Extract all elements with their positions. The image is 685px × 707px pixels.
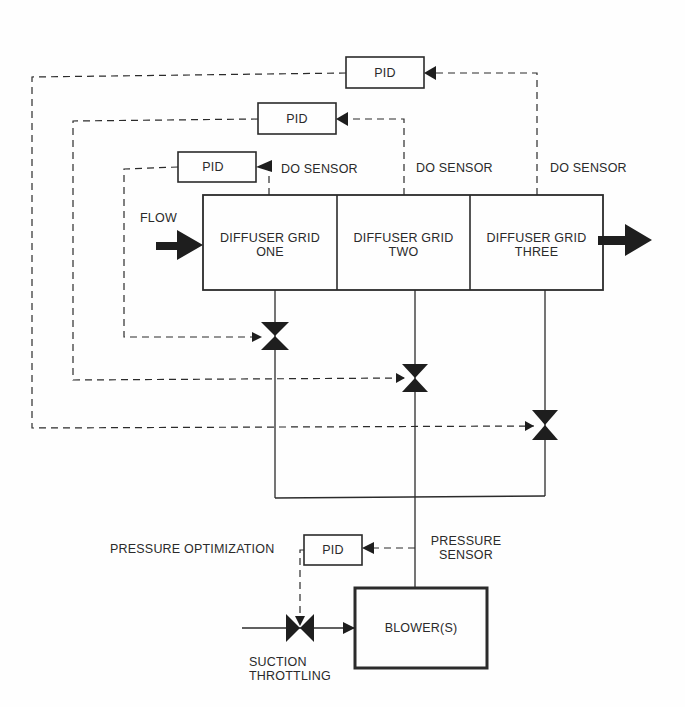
- arrow-into-pid-2: [336, 112, 348, 126]
- grid-two-line2: TWO: [337, 245, 470, 259]
- grid-one-line2: ONE: [203, 245, 337, 259]
- suction-throttling-label: SUCTION THROTTLING: [249, 655, 331, 683]
- grid-one-line1: DIFFUSER GRID: [203, 231, 337, 245]
- do-sensor-label-3: DO SENSOR: [550, 161, 627, 175]
- pressure-sensor-line2: SENSOR: [426, 548, 506, 562]
- valve-grid-1-bottom: [261, 336, 289, 350]
- grid-one-label: DIFFUSER GRID ONE: [203, 231, 337, 259]
- grid-three-line1: DIFFUSER GRID: [470, 231, 603, 245]
- pid-label-grid-2: PID: [258, 112, 336, 126]
- pid-label-pressure: PID: [304, 543, 362, 557]
- grid-two-label: DIFFUSER GRID TWO: [337, 231, 470, 259]
- do-sensor-label-2: DO SENSOR: [416, 161, 493, 175]
- pid-label-grid-3: PID: [346, 66, 424, 80]
- arrow-into-pid-1: [256, 160, 272, 172]
- flow-out-arrow-icon: [598, 224, 652, 256]
- pid-label-grid-1: PID: [178, 160, 248, 174]
- flow-label: FLOW: [140, 211, 177, 225]
- pressure-sensor-label: PRESSURE SENSOR: [426, 534, 506, 562]
- grid-three-line2: THREE: [470, 245, 603, 259]
- grid-two-line1: DIFFUSER GRID: [337, 231, 470, 245]
- diagram-lines: [0, 0, 685, 707]
- do-sensor-label-1: DO SENSOR: [281, 162, 358, 176]
- pressure-sensor-line1: PRESSURE: [426, 534, 506, 548]
- blower-label: BLOWER(S): [355, 621, 487, 635]
- suction-throttling-line2: THROTTLING: [249, 669, 331, 683]
- grid-three-label: DIFFUSER GRID THREE: [470, 231, 603, 259]
- valve-grid-1-top: [261, 322, 289, 336]
- arrow-into-pid-pressure: [362, 542, 374, 554]
- arrow-into-pid-3: [424, 66, 436, 80]
- flow-in-arrow-icon: [156, 230, 203, 260]
- pressure-optimization-label: PRESSURE OPTIMIZATION: [110, 542, 274, 556]
- arrow-into-blower: [343, 622, 355, 634]
- suction-throttling-line1: SUCTION: [249, 655, 331, 669]
- aeration-control-diagram: PID PID PID PID DO SENSOR DO SENSOR DO S…: [0, 0, 685, 707]
